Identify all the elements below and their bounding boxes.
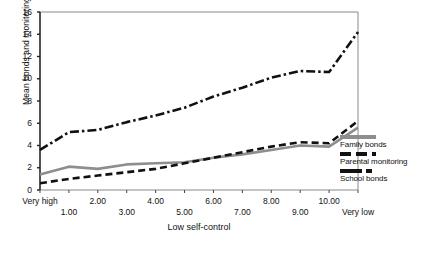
legend-label-parental-monitoring: Parental monitoring xyxy=(340,156,436,167)
x-axis-title: Low self-control xyxy=(40,222,358,232)
chart-legend: Family bonds Parental monitoring School … xyxy=(340,133,436,184)
legend-item-school-bonds: School bonds xyxy=(340,169,436,184)
plot-area xyxy=(0,0,436,254)
legend-item-parental-monitoring: Parental monitoring xyxy=(340,152,436,167)
figure: Mean bonds and monitoring 0246810121416 … xyxy=(0,0,436,254)
series-school-bonds xyxy=(40,32,358,150)
series-family-bonds xyxy=(40,128,358,175)
legend-item-family-bonds: Family bonds xyxy=(340,135,436,150)
legend-label-family-bonds: Family bonds xyxy=(340,139,436,150)
figure-caption xyxy=(18,246,418,254)
legend-label-school-bonds: School bonds xyxy=(340,173,436,184)
